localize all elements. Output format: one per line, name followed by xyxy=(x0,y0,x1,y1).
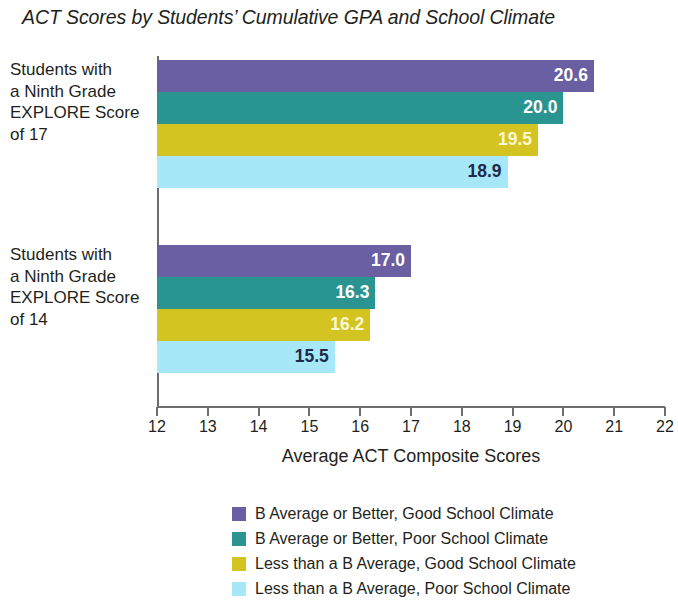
x-axis-tick-label: 12 xyxy=(137,418,177,436)
bar-value-label: 20.6 xyxy=(554,67,588,85)
legend-swatch-icon xyxy=(232,557,246,571)
legend-label: Less than a B Average, Poor School Clima… xyxy=(255,580,570,598)
x-axis-tick-label: 15 xyxy=(289,418,329,436)
category-label-line: EXPLORE Score xyxy=(10,287,155,309)
category-label-line: Students with xyxy=(10,59,155,81)
x-axis-tick-label: 14 xyxy=(239,418,279,436)
bar-row: 20.0 xyxy=(157,92,665,124)
bar[interactable]: 18.9 xyxy=(157,156,508,188)
category-label-line: of 17 xyxy=(10,124,155,146)
chart-title: ACT Scores by Students’ Cumulative GPA a… xyxy=(22,6,555,29)
bar[interactable]: 20.6 xyxy=(157,60,594,92)
bar-row: 15.5 xyxy=(157,341,665,373)
bar-row: 18.9 xyxy=(157,156,665,188)
x-axis-tick-label: 13 xyxy=(188,418,228,436)
x-axis-tick xyxy=(461,407,463,416)
legend-item[interactable]: B Average or Better, Good School Climate xyxy=(232,501,652,526)
category-label-line: EXPLORE Score xyxy=(10,102,155,124)
bar-value-label: 16.2 xyxy=(330,316,364,334)
category-label-line: of 14 xyxy=(10,309,155,331)
legend-label: B Average or Better, Poor School Climate xyxy=(255,530,548,548)
bar-row: 19.5 xyxy=(157,124,665,156)
bar[interactable]: 16.3 xyxy=(157,277,375,309)
x-axis-tick-label: 17 xyxy=(391,418,431,436)
x-axis-tick-label: 18 xyxy=(442,418,482,436)
bar-row: 16.3 xyxy=(157,277,665,309)
category-label-line: Students with xyxy=(10,244,155,266)
bar-row: 17.0 xyxy=(157,245,665,277)
legend-item[interactable]: Less than a B Average, Poor School Clima… xyxy=(232,576,652,601)
bar[interactable]: 20.0 xyxy=(157,92,563,124)
x-axis-tick-label: 19 xyxy=(493,418,533,436)
bar-row: 16.2 xyxy=(157,309,665,341)
category-label-line: a Ninth Grade xyxy=(10,266,155,288)
chart-legend: B Average or Better, Good School Climate… xyxy=(232,501,652,601)
bar-group-explore-14: 17.016.316.215.5 xyxy=(157,245,665,373)
category-label-group-2: Students witha Ninth GradeEXPLORE Scoreo… xyxy=(10,244,155,330)
legend-swatch-icon xyxy=(232,507,246,521)
x-axis-tick-label: 21 xyxy=(594,418,634,436)
legend-item[interactable]: B Average or Better, Poor School Climate xyxy=(232,526,652,551)
bar[interactable]: 15.5 xyxy=(157,341,335,373)
legend-label: B Average or Better, Good School Climate xyxy=(255,505,554,523)
legend-swatch-icon xyxy=(232,582,246,596)
x-axis-tick-label: 20 xyxy=(543,418,583,436)
x-axis-tick xyxy=(664,407,666,416)
bar-value-label: 15.5 xyxy=(295,348,329,366)
category-label-group-1: Students witha Ninth GradeEXPLORE Scoreo… xyxy=(10,59,155,145)
x-axis-tick-label: 22 xyxy=(645,418,678,436)
x-axis-tick xyxy=(359,407,361,416)
x-axis-tick xyxy=(258,407,260,416)
x-axis-title: Average ACT Composite Scores xyxy=(157,446,665,467)
x-axis-tick xyxy=(207,407,209,416)
plot-area: 20.620.019.518.9 17.016.316.215.5 xyxy=(157,58,665,407)
bar-value-label: 20.0 xyxy=(523,99,557,117)
x-axis-tick xyxy=(613,407,615,416)
legend-swatch-icon xyxy=(232,532,246,546)
category-label-line: a Ninth Grade xyxy=(10,81,155,103)
bar-value-label: 18.9 xyxy=(467,163,501,181)
bar-group-explore-17: 20.620.019.518.9 xyxy=(157,60,665,188)
legend-item[interactable]: Less than a B Average, Good School Clima… xyxy=(232,551,652,576)
bar-value-label: 17.0 xyxy=(371,252,405,270)
x-axis-tick-label: 16 xyxy=(340,418,380,436)
bar-row: 20.6 xyxy=(157,60,665,92)
x-axis-tick xyxy=(410,407,412,416)
x-axis-tick xyxy=(308,407,310,416)
bar-value-label: 19.5 xyxy=(498,131,532,149)
bar[interactable]: 16.2 xyxy=(157,309,370,341)
bar[interactable]: 19.5 xyxy=(157,124,538,156)
legend-label: Less than a B Average, Good School Clima… xyxy=(255,555,576,573)
x-axis-tick xyxy=(156,407,158,416)
x-axis-tick xyxy=(562,407,564,416)
x-axis-tick xyxy=(512,407,514,416)
bar[interactable]: 17.0 xyxy=(157,245,411,277)
bar-value-label: 16.3 xyxy=(335,284,369,302)
